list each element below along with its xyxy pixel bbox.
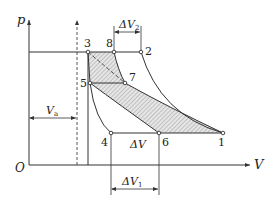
dV-label: ΔV bbox=[129, 138, 147, 151]
dV2-label: ΔV2 bbox=[118, 18, 139, 32]
point-6 bbox=[157, 131, 161, 135]
label-8: 8 bbox=[106, 37, 113, 50]
point-3 bbox=[86, 50, 90, 54]
label-2: 2 bbox=[145, 45, 152, 58]
p-axis-label: p bbox=[17, 12, 26, 27]
dV1-label: ΔV1 bbox=[121, 175, 142, 189]
label-7: 7 bbox=[129, 71, 136, 84]
point-4 bbox=[109, 131, 113, 135]
point-7 bbox=[123, 81, 127, 85]
point-8 bbox=[112, 50, 116, 54]
label-4: 4 bbox=[101, 136, 108, 149]
label-6: 6 bbox=[162, 136, 169, 149]
point-5 bbox=[88, 81, 92, 85]
label-5: 5 bbox=[80, 77, 87, 90]
label-1: 1 bbox=[218, 136, 225, 149]
Va-label: Va bbox=[46, 104, 58, 118]
v-axis-label: V bbox=[254, 157, 265, 172]
origin-label: O bbox=[15, 161, 25, 175]
point-2 bbox=[139, 50, 143, 54]
pv-diagram: p V O 3 8 2 5 7 4 6 1 ΔV2 ΔV1 ΔV Va bbox=[0, 0, 273, 205]
label-3: 3 bbox=[84, 37, 91, 50]
point-1 bbox=[221, 131, 225, 135]
